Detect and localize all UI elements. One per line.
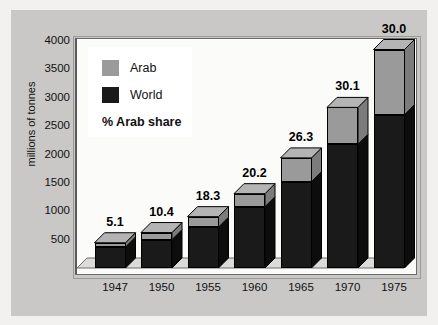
y-tick-label: 2000 — [26, 149, 70, 160]
bar-value-label: 30.0 — [364, 22, 424, 36]
bar-front-face — [95, 243, 126, 247]
bar-front-face — [141, 240, 172, 268]
x-tick-label: 1975 — [364, 281, 424, 293]
bar-value-label: 30.1 — [318, 79, 378, 93]
legend-item-arab: Arab — [102, 60, 156, 76]
y-tick-label: 2500 — [26, 120, 70, 131]
legend-swatch-world — [102, 87, 119, 103]
y-tick-label: 1000 — [26, 205, 70, 216]
legend: Arab World % Arab share — [88, 47, 192, 137]
bar-value-label: 18.3 — [178, 189, 238, 203]
bar-front-face — [374, 50, 405, 115]
bar-front-face — [234, 207, 265, 268]
y-tick-label: 4000 — [26, 35, 70, 46]
legend-label-arab: Arab — [130, 61, 156, 75]
bar-front-face — [327, 107, 358, 144]
y-tick-label: 3000 — [26, 92, 70, 103]
bar-front-face — [188, 227, 219, 268]
bar-front-face — [95, 247, 126, 268]
bar-value-label: 10.4 — [132, 205, 192, 219]
legend-label-world: World — [130, 88, 162, 102]
y-axis-ticks: 5001000150020002500300035004000 — [22, 0, 70, 325]
bar-value-label: 26.3 — [271, 130, 331, 144]
legend-item-world: World — [102, 87, 162, 103]
legend-note-arab-share: % Arab share — [102, 115, 181, 129]
y-axis-line — [75, 38, 77, 274]
bar-front-face — [327, 144, 358, 268]
y-tick-label: 3500 — [26, 63, 70, 74]
legend-swatch-arab — [102, 60, 119, 76]
bar-front-face — [281, 158, 312, 182]
bar-front-face — [141, 233, 172, 240]
chart-screenshot: millions of tonnes 500100015002000250030… — [0, 0, 438, 325]
bar-value-label: 20.2 — [225, 166, 285, 180]
bar-front-face — [234, 194, 265, 207]
bar-front-face — [188, 217, 219, 227]
y-tick-label: 1500 — [26, 177, 70, 188]
bar-front-face — [374, 115, 405, 268]
y-tick-label: 500 — [26, 234, 70, 245]
bar-front-face — [281, 182, 312, 268]
